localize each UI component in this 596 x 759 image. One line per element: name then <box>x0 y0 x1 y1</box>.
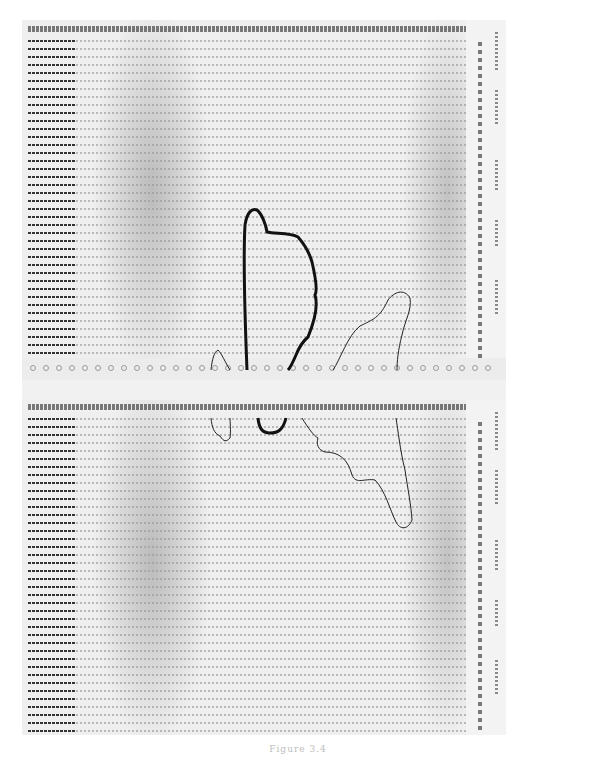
sprocket-hole <box>238 365 244 371</box>
row-characters <box>76 352 496 354</box>
printout-row <box>22 88 506 90</box>
sprocket-hole <box>316 365 322 371</box>
row-characters <box>76 312 496 314</box>
row-number <box>478 330 482 334</box>
row-characters <box>76 706 496 708</box>
row-marker <box>28 264 76 266</box>
row-marker <box>28 650 76 652</box>
row-number <box>478 42 482 46</box>
row-marker <box>28 418 76 420</box>
printout-row <box>22 730 506 732</box>
sprocket-hole <box>303 365 309 371</box>
row-number <box>478 258 482 262</box>
row-number <box>478 306 482 310</box>
printout-row <box>22 706 506 708</box>
sprocket-hole-strip <box>22 358 506 380</box>
printout-row <box>22 514 506 516</box>
row-number <box>478 542 482 546</box>
row-number <box>478 510 482 514</box>
printout-row <box>22 490 506 492</box>
row-number <box>478 446 482 450</box>
sprocket-hole <box>108 365 114 371</box>
printout-row <box>22 522 506 524</box>
sprocket-hole <box>186 365 192 371</box>
row-characters <box>76 498 496 500</box>
sprocket-hole <box>420 365 426 371</box>
margin-annotation <box>495 600 498 628</box>
row-marker <box>28 474 76 476</box>
printout-row <box>22 618 506 620</box>
printout-row <box>22 56 506 58</box>
row-characters <box>76 626 496 628</box>
row-marker <box>28 442 76 444</box>
sprocket-hole <box>407 365 413 371</box>
printout-row <box>22 240 506 242</box>
row-marker <box>28 152 76 154</box>
row-number <box>478 250 482 254</box>
row-characters <box>76 554 496 556</box>
row-marker <box>28 224 76 226</box>
sprocket-hole <box>199 365 205 371</box>
row-number <box>478 598 482 602</box>
right-margin-upper <box>466 20 506 358</box>
row-characters <box>76 658 496 660</box>
row-number <box>478 526 482 530</box>
row-marker <box>28 562 76 564</box>
row-marker <box>28 352 76 354</box>
row-characters <box>76 506 496 508</box>
row-marker <box>28 466 76 468</box>
sprocket-hole <box>381 365 387 371</box>
sprocket-hole <box>355 365 361 371</box>
row-characters <box>76 594 496 596</box>
row-characters <box>76 466 496 468</box>
sprocket-hole <box>472 365 478 371</box>
row-characters <box>76 344 496 346</box>
row-marker <box>28 570 76 572</box>
row-characters <box>76 288 496 290</box>
row-number <box>478 194 482 198</box>
printout-row <box>22 642 506 644</box>
row-number <box>478 202 482 206</box>
row-number <box>478 662 482 666</box>
row-number <box>478 346 482 350</box>
row-characters <box>76 682 496 684</box>
row-characters <box>76 256 496 258</box>
row-number <box>478 590 482 594</box>
row-characters <box>76 482 496 484</box>
row-characters <box>76 434 496 436</box>
printout-row <box>22 40 506 42</box>
row-number <box>478 494 482 498</box>
printout-row <box>22 152 506 154</box>
row-characters <box>76 570 496 572</box>
row-characters <box>76 722 496 724</box>
row-characters <box>76 264 496 266</box>
row-marker <box>28 80 76 82</box>
row-marker <box>28 184 76 186</box>
printout-row <box>22 160 506 162</box>
sprocket-hole <box>121 365 127 371</box>
printout-sheet-lower <box>22 400 506 735</box>
row-characters <box>76 650 496 652</box>
printout-row <box>22 506 506 508</box>
row-number <box>478 646 482 650</box>
row-marker <box>28 490 76 492</box>
sprocket-hole <box>160 365 166 371</box>
row-marker <box>28 450 76 452</box>
row-number <box>478 678 482 682</box>
row-marker <box>28 642 76 644</box>
row-characters <box>76 458 496 460</box>
sprocket-hole <box>290 365 296 371</box>
row-number <box>478 630 482 634</box>
row-marker <box>28 208 76 210</box>
row-marker <box>28 136 76 138</box>
row-marker <box>28 730 76 732</box>
printout-row <box>22 248 506 250</box>
row-marker <box>28 658 76 660</box>
sprocket-hole <box>251 365 257 371</box>
printout-row <box>22 128 506 130</box>
row-number <box>478 66 482 70</box>
printout-row <box>22 256 506 258</box>
row-characters <box>76 304 496 306</box>
printout-row <box>22 674 506 676</box>
row-number <box>478 470 482 474</box>
